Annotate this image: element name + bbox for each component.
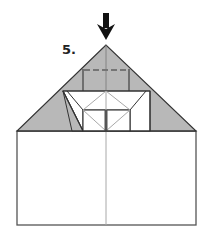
push-arrow-icon — [97, 13, 115, 40]
diagram-canvas — [0, 0, 205, 243]
center-bar — [105, 110, 108, 131]
